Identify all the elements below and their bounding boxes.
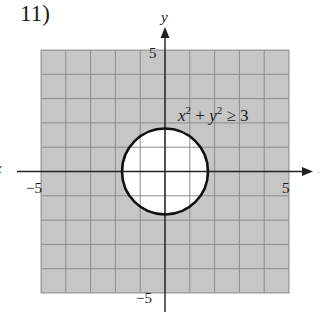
x-axis-label-right: .: [318, 168, 320, 174]
x-axis-arrow-icon: [302, 167, 313, 176]
inequality-graph: y x . 5 −5 −5 5 x2 + y2 ≥ 3: [0, 0, 322, 312]
x-tick-right: 5: [282, 180, 290, 196]
y-tick-bottom: −5: [136, 290, 152, 306]
y-axis-arrow-icon: [161, 27, 170, 38]
inequality-plus: +: [191, 106, 209, 125]
x-tick-left: −5: [26, 180, 42, 196]
y-axis-label: y: [159, 9, 168, 25]
inequality-relation: ≥ 3: [222, 106, 248, 125]
y-tick-top: 5: [149, 45, 157, 61]
x-axis-label-left: x: [0, 160, 2, 176]
inequality-y: y: [207, 106, 217, 125]
